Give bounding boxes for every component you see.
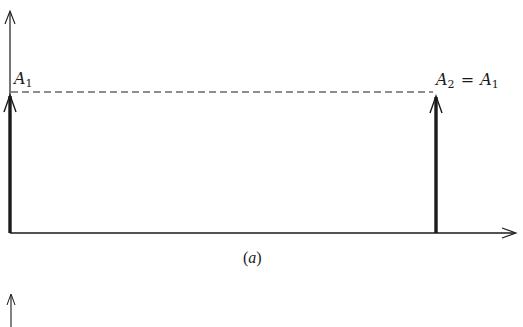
label-lhs-symbol: A [436,70,448,89]
equals-sign: = [461,70,474,89]
impulse-2-label: A2 = A1 [436,72,499,90]
caption-letter: a [248,249,256,266]
label-rhs-symbol: A [480,70,492,89]
impulse-2 [430,96,442,233]
label-lhs-subscript: 2 [448,78,455,91]
vertical-axis-b [7,294,15,327]
panel-a-caption: (a) [243,250,262,266]
impulse-1-label: A1 [14,71,33,89]
figure-canvas [0,0,523,327]
horizontal-axis-a [10,228,516,238]
label-rhs-subscript: 1 [492,78,499,91]
label-subscript: 1 [26,77,33,90]
impulse-1 [4,95,16,233]
label-symbol: A [14,69,26,88]
